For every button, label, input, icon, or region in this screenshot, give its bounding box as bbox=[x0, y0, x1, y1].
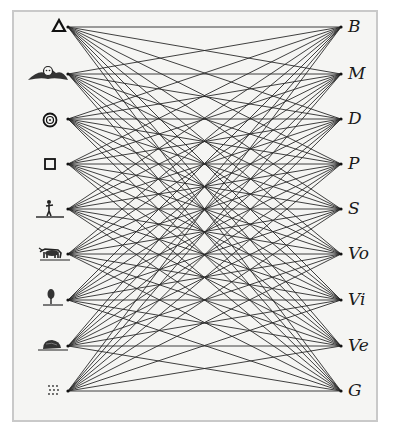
tree-icon bbox=[43, 289, 63, 305]
node-label-vo: Vo bbox=[348, 245, 369, 262]
node-label-ve: Ve bbox=[348, 337, 369, 354]
animal-icon bbox=[39, 248, 70, 260]
node-label-p: P bbox=[348, 155, 359, 172]
node-label-vi: Vi bbox=[348, 291, 365, 308]
square-icon bbox=[45, 159, 55, 169]
node-label-s: S bbox=[348, 200, 360, 217]
rock-icon bbox=[38, 340, 68, 350]
triangle-icon bbox=[53, 20, 65, 31]
dots-grid-icon bbox=[48, 385, 59, 395]
node-label-b: B bbox=[348, 18, 361, 35]
node-label-m: M bbox=[348, 65, 365, 82]
node-label-d: D bbox=[348, 110, 362, 127]
human-figure-icon bbox=[36, 200, 64, 217]
icons-layer bbox=[0, 0, 393, 438]
diagram-stage: B M D P S Vo Vi Ve G bbox=[0, 0, 393, 438]
node-label-g: G bbox=[348, 382, 362, 399]
concentric-circles-icon bbox=[44, 114, 57, 127]
winged-cherub-icon bbox=[28, 67, 68, 81]
